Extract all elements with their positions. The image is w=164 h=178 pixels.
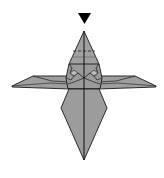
push-arrow-icon <box>78 13 91 24</box>
origami-figure <box>0 0 164 178</box>
right-wing <box>98 76 156 89</box>
left-wing <box>12 76 70 89</box>
origami-diagram <box>0 0 164 178</box>
